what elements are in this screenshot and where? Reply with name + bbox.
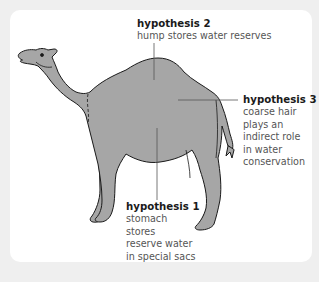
hypothesis-1-text-line: reserve water: [126, 238, 199, 250]
hypothesis-3-label: hypothesis 3 coarse hair plays an indire…: [243, 94, 316, 168]
hypothesis-1-label: hypothesis 1 stomach stores reserve wate…: [126, 201, 199, 263]
hypothesis-3-text-line: indirect role: [243, 131, 316, 143]
hypothesis-2-title: hypothesis 2: [137, 18, 271, 30]
camel-eye: [41, 54, 44, 57]
hypothesis-1-text-line: in special sacs: [126, 251, 199, 263]
hypothesis-3-text-line: plays an: [243, 119, 316, 131]
hypothesis-1-text-line: stores: [126, 226, 199, 238]
hypothesis-1-text-line: stomach: [126, 213, 199, 225]
hypothesis-3-text-line: in water: [243, 144, 316, 156]
hypothesis-3-text-line: coarse hair: [243, 106, 316, 118]
hypothesis-1-title: hypothesis 1: [126, 201, 199, 213]
hypothesis-2-label: hypothesis 2 hump stores water reserves: [137, 18, 271, 43]
hypothesis-3-title: hypothesis 3: [243, 94, 316, 106]
hypothesis-2-text: hump stores water reserves: [137, 30, 271, 42]
hypothesis-3-text-line: conservation: [243, 156, 316, 168]
